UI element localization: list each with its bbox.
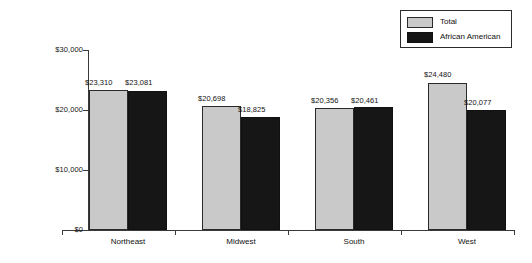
bar-label-south-total: $20,356 — [311, 96, 338, 105]
y-axis-tick-label-0: $0 — [27, 226, 83, 234]
y-axis-tick-label-1: $10,000 — [27, 166, 83, 174]
bar-west-african-american[interactable] — [467, 110, 506, 230]
y-axis-tick-label-2: $20,000 — [27, 106, 83, 114]
bar-midwest-total[interactable] — [202, 106, 241, 230]
bar-label-west-total: $24,480 — [424, 70, 451, 79]
y-axis-tick-mark-3 — [83, 50, 89, 51]
y-axis-tick-label-3: $30,000 — [27, 46, 83, 54]
bar-label-northeast-african-american: $23,081 — [125, 78, 152, 87]
legend-item-total[interactable]: Total — [407, 16, 457, 28]
x-axis-tick-1 — [175, 230, 176, 235]
x-axis-category-label-south: South — [304, 237, 404, 247]
bar-label-south-african-american: $20,461 — [351, 96, 378, 105]
legend-label-african-american: African American — [440, 32, 500, 42]
bar-northeast-african-american[interactable] — [128, 91, 167, 230]
chart-legend: Total African American — [400, 10, 512, 48]
legend-swatch-african-american-icon — [407, 32, 433, 43]
bar-chart: $0 $10,000 $20,000 $30,000 $23,310 $23,0… — [0, 0, 532, 263]
bar-south-total[interactable] — [315, 108, 354, 230]
x-axis-tick-3 — [401, 230, 402, 235]
y-axis-tick-1: $10,000 — [0, 166, 83, 174]
x-axis-category-label-midwest: Midwest — [191, 237, 291, 247]
x-axis-tick-0 — [62, 230, 63, 235]
legend-item-african-american[interactable]: African American — [407, 31, 500, 43]
bar-label-northeast-total: $23,310 — [85, 78, 112, 87]
bar-label-west-african-american: $20,077 — [464, 98, 491, 107]
legend-swatch-total-icon — [407, 17, 433, 28]
y-axis-tick-mark-0 — [83, 230, 89, 231]
y-axis-tick-0: $0 — [0, 226, 83, 234]
bar-northeast-total[interactable] — [89, 90, 128, 230]
y-axis-tick-2: $20,000 — [0, 106, 83, 114]
y-axis-tick-3: $30,000 — [0, 46, 83, 54]
bar-label-midwest-african-american: $18,825 — [238, 105, 265, 114]
bar-label-midwest-total: $20,698 — [198, 94, 225, 103]
x-axis-tick-2 — [288, 230, 289, 235]
legend-label-total: Total — [440, 17, 457, 27]
x-axis-tick-4 — [514, 230, 515, 235]
bar-midwest-african-american[interactable] — [241, 117, 280, 230]
x-axis-category-label-northeast: Northeast — [78, 237, 178, 247]
bar-west-total[interactable] — [428, 83, 467, 230]
bar-south-african-american[interactable] — [354, 107, 393, 230]
x-axis-category-label-west: West — [417, 237, 517, 247]
